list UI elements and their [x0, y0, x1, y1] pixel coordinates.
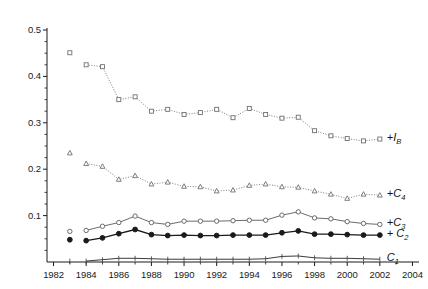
y-axis-tick-label: 0.1: [2, 210, 41, 221]
series-label-text: +C: [387, 187, 401, 199]
series-label-I_B: +IB: [387, 131, 402, 146]
isolated-point-1983-C_2: [67, 237, 72, 242]
series-C_3: [68, 210, 382, 234]
series-label-text: C: [387, 251, 395, 263]
series-label-subscript: B: [396, 137, 401, 146]
series-label-text: + C: [387, 227, 404, 239]
series-label-text: +I: [387, 131, 396, 143]
x-axis-tick-label: 2004: [392, 269, 428, 280]
series-I_B: [68, 51, 382, 143]
y-axis-tick-label: 0.4: [2, 70, 41, 81]
series-label-C_2: + C2: [387, 227, 409, 242]
series-C_2: [67, 227, 382, 243]
isolated-point-1983-C_4: [67, 150, 72, 155]
chart-plot-area: [0, 0, 428, 289]
series-label-C_1: C1: [387, 251, 399, 266]
y-axis-tick-label: 0.5: [2, 24, 41, 35]
y-axis-tick-label: 0.3: [2, 117, 41, 128]
chart-canvas: 0.10.20.30.40.51982198419861988199019921…: [0, 0, 428, 289]
series-label-subscript: 1: [395, 257, 399, 266]
series-C_4: [67, 150, 382, 200]
series-label-C_4: +C4: [387, 187, 406, 202]
series-label-subscript: 2: [404, 233, 408, 242]
isolated-point-1983-C_3: [68, 229, 72, 233]
series-label-subscript: 4: [401, 193, 405, 202]
isolated-point-1983-I_B: [68, 51, 72, 55]
y-axis-tick-label: 0.2: [2, 163, 41, 174]
